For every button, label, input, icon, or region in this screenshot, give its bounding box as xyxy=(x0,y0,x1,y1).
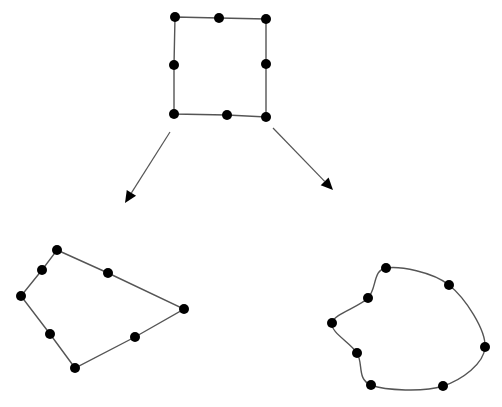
control-point xyxy=(70,363,80,373)
control-point xyxy=(366,380,376,390)
arrow-left-shaft xyxy=(131,132,170,193)
control-point xyxy=(444,280,454,290)
control-point xyxy=(169,60,179,70)
control-point xyxy=(261,59,271,69)
source-square-outline xyxy=(174,17,266,117)
control-point xyxy=(37,265,47,275)
control-point xyxy=(179,304,189,314)
control-point xyxy=(214,13,224,23)
control-point xyxy=(480,342,490,352)
control-point xyxy=(381,263,391,273)
control-point xyxy=(103,268,113,278)
control-point xyxy=(438,381,448,391)
arrowhead-icon xyxy=(125,190,136,203)
control-point xyxy=(327,318,337,328)
curved-deformation-shape xyxy=(327,263,490,391)
diagram-canvas xyxy=(0,0,502,407)
source-square xyxy=(169,12,271,122)
control-point xyxy=(130,332,140,342)
control-point xyxy=(52,245,62,255)
control-point xyxy=(352,348,362,358)
transformation-arrows xyxy=(125,128,333,203)
curved-deformation-outline xyxy=(332,268,485,390)
control-point xyxy=(261,112,271,122)
arrow-right-shaft xyxy=(273,128,325,181)
control-point xyxy=(261,14,271,24)
control-point xyxy=(45,329,55,339)
control-point xyxy=(222,110,232,120)
linear-deformation-shape xyxy=(16,245,189,373)
control-point xyxy=(16,291,26,301)
control-point xyxy=(169,109,179,119)
control-point xyxy=(170,12,180,22)
control-point xyxy=(363,293,373,303)
